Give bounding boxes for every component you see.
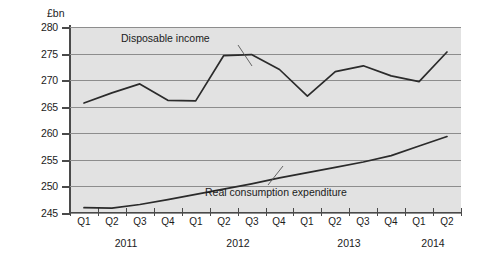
x-axis-tick-label: Q2: [99, 216, 125, 227]
x-axis-tick-label: Q2: [434, 216, 460, 227]
x-axis-tick: [154, 208, 155, 216]
y-axis-tick-label-text: 260: [24, 127, 58, 139]
gridline: [70, 133, 461, 134]
gridline: [70, 80, 461, 81]
y-axis-tick-label: 260: [20, 127, 58, 139]
chart-figure: £bn 245250255260265270275280 Q1Q2Q3Q4Q1Q…: [0, 0, 494, 267]
y-axis-tick-label: 250: [20, 180, 58, 192]
x-axis-year-label: 2014: [403, 237, 463, 249]
y-axis-tick-label: 270: [20, 74, 58, 86]
x-axis-tick-label: Q3: [350, 216, 376, 227]
annotation-real-consumption-expenditure: Real consumption expenditure: [205, 186, 347, 198]
y-axis-tick-label: 280: [20, 21, 58, 33]
x-axis-year-label: 2012: [208, 237, 268, 249]
gridline: [70, 54, 461, 55]
x-axis-tick: [182, 208, 183, 216]
x-axis-tick: [405, 208, 406, 216]
x-axis-tick-label: Q4: [155, 216, 181, 227]
x-axis-tick-label: Q4: [378, 216, 404, 227]
y-axis-tick-label-text: 245: [24, 207, 58, 219]
y-axis-tick-label-text: 275: [24, 48, 58, 60]
x-axis-tick: [377, 208, 378, 216]
x-axis-tick-label: Q1: [71, 216, 97, 227]
y-axis-tick-label: 265: [20, 101, 58, 113]
y-axis-tick-label: 275: [20, 48, 58, 60]
x-axis-tick-label: Q1: [294, 216, 320, 227]
x-axis-tick-label: Q4: [266, 216, 292, 227]
y-axis-tick-label-text: 255: [24, 154, 58, 166]
x-axis-tick: [433, 208, 434, 216]
x-axis-tick: [349, 208, 350, 216]
x-axis-tick-label: Q3: [239, 216, 265, 227]
x-axis-tick-label: Q2: [211, 216, 237, 227]
x-axis-year-label: 2011: [96, 237, 156, 249]
x-axis-tick-label: Q2: [322, 216, 348, 227]
x-axis-tick: [210, 208, 211, 216]
y-axis-tick-label: 255: [20, 154, 58, 166]
y-axis-tick-label-text: 280: [24, 21, 58, 33]
x-axis-tick: [293, 208, 294, 216]
y-axis-unit-label: £bn: [47, 7, 65, 19]
x-axis-tick: [98, 208, 99, 216]
y-axis-tick-label: 245: [20, 207, 58, 219]
x-axis-tick: [461, 208, 462, 216]
x-axis-tick: [321, 208, 322, 216]
gridline: [70, 160, 461, 161]
x-axis-tick-label: Q1: [183, 216, 209, 227]
x-axis-tick: [238, 208, 239, 216]
y-axis-tick-label-text: 265: [24, 101, 58, 113]
x-axis-tick-label: Q1: [406, 216, 432, 227]
annotation-disposable-income: Disposable income: [121, 32, 210, 44]
y-axis-tick-label-text: 250: [24, 180, 58, 192]
y-axis-tick-label-text: 270: [24, 74, 58, 86]
x-axis-year-label: 2013: [319, 237, 379, 249]
x-axis-tick: [126, 208, 127, 216]
gridline: [70, 107, 461, 108]
gridline: [70, 27, 461, 28]
x-axis-tick: [266, 208, 267, 216]
x-axis-tick: [70, 208, 71, 216]
x-axis-tick-label: Q3: [127, 216, 153, 227]
